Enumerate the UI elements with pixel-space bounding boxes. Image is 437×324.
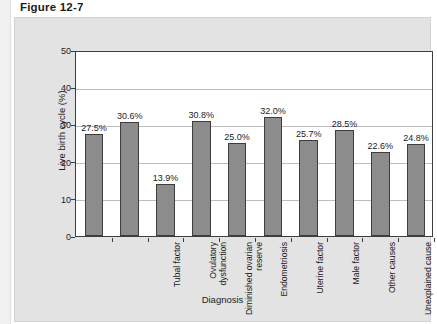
bar[interactable] — [371, 152, 390, 236]
x-axis-category-label: Endometriosis — [279, 242, 289, 316]
bar[interactable] — [192, 121, 211, 236]
y-axis-tick-label: 20 — [49, 158, 71, 168]
bar-value-label: 25.7% — [296, 129, 322, 139]
y-axis: Live birth cycle (%) 01020304050 — [45, 51, 71, 237]
x-axis-tick-mark — [398, 238, 399, 242]
y-axis-tick-label: 30 — [49, 120, 71, 130]
x-axis-tick-mark — [362, 238, 363, 242]
bar[interactable] — [407, 144, 426, 236]
y-axis-tick-label: 40 — [49, 83, 71, 93]
bar-value-label: 32.0% — [260, 106, 286, 116]
x-axis-tick-mark — [434, 238, 435, 242]
x-axis-category-label: Tubal factor — [172, 242, 182, 316]
bar-value-label: 25.0% — [224, 132, 250, 142]
x-axis-category-label: Diminished ovarian reserve — [244, 242, 264, 316]
bar-value-label: 24.8% — [403, 133, 429, 143]
y-axis-tick-label: 50 — [49, 46, 71, 56]
y-axis-tick-label: 10 — [49, 195, 71, 205]
bar-value-label: 13.9% — [153, 173, 179, 183]
plot-area: 27.5%30.6%13.9%30.8%25.0%32.0%25.7%28.5%… — [75, 51, 433, 237]
x-axis-category-label: Ovulatory dysfunction — [208, 242, 228, 316]
bar-value-label: 27.5% — [81, 123, 107, 133]
x-axis-tick-mark — [183, 238, 184, 242]
bar[interactable] — [156, 184, 175, 236]
x-axis-tick-mark — [112, 238, 113, 242]
bar[interactable] — [299, 140, 318, 236]
bar-value-label: 30.6% — [117, 111, 143, 121]
x-axis-tick-mark — [291, 238, 292, 242]
bar-value-label: 30.8% — [189, 110, 215, 120]
x-axis-category-label: Male factor — [351, 242, 361, 316]
bar[interactable] — [335, 130, 354, 236]
bar[interactable] — [228, 143, 247, 236]
x-axis-category-label: Uterine factor — [315, 242, 325, 316]
bar[interactable] — [264, 117, 283, 236]
y-axis-tick-label: 0 — [49, 232, 71, 242]
figure-panel: Live birth cycle (%) 01020304050 27.5%30… — [14, 17, 431, 322]
x-axis-tick-mark — [327, 238, 328, 242]
bar[interactable] — [120, 122, 139, 236]
x-axis-category-label: Unexplained cause — [423, 242, 433, 316]
page-edge-strip — [0, 0, 11, 324]
bar-value-label: 22.6% — [368, 141, 394, 151]
gridline — [76, 89, 432, 90]
bar-value-label: 28.5% — [332, 119, 358, 129]
bar[interactable] — [85, 134, 104, 236]
x-axis-category-label: Other causes — [387, 242, 397, 316]
x-axis-tick-mark — [148, 238, 149, 242]
figure-title: Figure 12-7 — [20, 1, 84, 13]
